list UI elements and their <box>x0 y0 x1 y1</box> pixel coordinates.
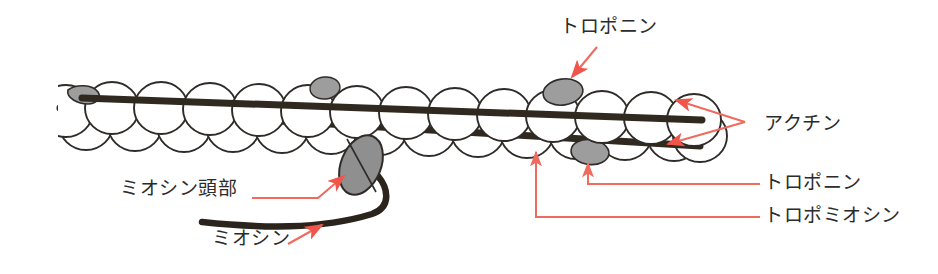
actin-monomer <box>183 83 237 135</box>
filament-illustration <box>0 0 938 274</box>
actin-monomer <box>232 84 286 136</box>
leader-myosin-head <box>252 176 344 198</box>
label-troponin-right: トロポニン <box>764 172 862 194</box>
label-myosin-head: ミオシン頭部 <box>120 178 237 200</box>
leader-troponin-right <box>588 163 760 184</box>
label-tropomyosin: トロポミオシン <box>764 205 901 227</box>
label-myosin: ミオシン <box>212 228 290 250</box>
label-actin: アクチン <box>764 113 841 135</box>
actin-monomer <box>134 82 188 134</box>
label-troponin-top: トロポニン <box>560 16 658 38</box>
leader-troponin-top <box>572 47 597 77</box>
figure-canvas: トロポニン アクチン トロポニン トロポミオシン ミオシン頭部 ミオシン <box>0 0 938 274</box>
